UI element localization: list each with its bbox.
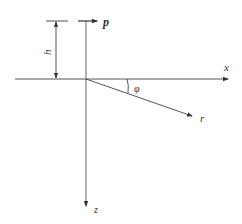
radius-label: r <box>200 112 205 124</box>
height-label: h <box>41 49 53 55</box>
x-axis-label: x <box>223 61 229 73</box>
z-axis-label: z <box>93 204 98 215</box>
diagram-canvas: x z p h r φ <box>0 0 242 224</box>
force-label: p <box>102 15 109 29</box>
angle-arc <box>127 79 128 93</box>
angle-label: φ <box>134 83 140 94</box>
